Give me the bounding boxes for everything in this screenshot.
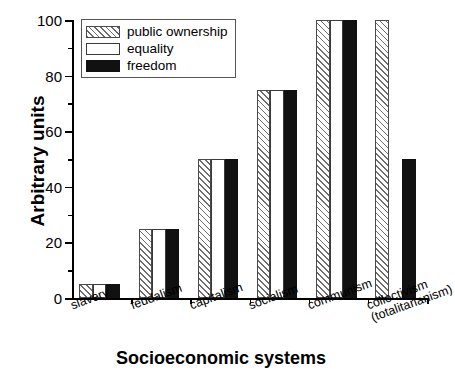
y-tick-major bbox=[65, 187, 72, 189]
bar bbox=[225, 159, 239, 298]
bar bbox=[211, 159, 225, 298]
legend-item: freedom bbox=[86, 57, 228, 74]
bar-group bbox=[257, 20, 298, 298]
bar-group bbox=[375, 20, 416, 298]
legend-swatch bbox=[86, 60, 120, 72]
legend-item: public ownership bbox=[86, 23, 228, 40]
bar bbox=[198, 159, 212, 298]
y-tick-label: 80 bbox=[45, 67, 62, 84]
legend-item: equality bbox=[86, 40, 228, 57]
bar bbox=[343, 20, 357, 298]
y-tick-major bbox=[65, 131, 72, 133]
bar bbox=[330, 20, 344, 298]
y-axis-title: Arbitrary units bbox=[27, 61, 49, 261]
bar bbox=[402, 159, 416, 298]
y-tick-major bbox=[65, 242, 72, 244]
y-tick-label: 60 bbox=[45, 123, 62, 140]
bar bbox=[375, 20, 389, 298]
y-tick-label: 0 bbox=[54, 290, 62, 307]
y-tick-label: 20 bbox=[45, 234, 62, 251]
bar bbox=[139, 229, 153, 299]
bar bbox=[270, 90, 284, 299]
bar bbox=[316, 20, 330, 298]
bar bbox=[284, 90, 298, 299]
y-tick-major bbox=[65, 20, 72, 22]
legend-swatch bbox=[86, 26, 120, 38]
legend-label: freedom bbox=[127, 58, 177, 73]
bar bbox=[257, 90, 271, 299]
y-tick-label: 40 bbox=[45, 178, 62, 195]
y-tick-label: 100 bbox=[37, 12, 62, 29]
y-tick-major bbox=[65, 76, 72, 78]
x-axis-title: Socioeconomic systems bbox=[0, 348, 442, 369]
legend-label: equality bbox=[127, 41, 174, 56]
legend-swatch bbox=[86, 43, 120, 55]
legend-label: public ownership bbox=[127, 24, 228, 39]
legend: public ownershipequalityfreedom bbox=[81, 19, 236, 78]
bar-group bbox=[316, 20, 357, 298]
